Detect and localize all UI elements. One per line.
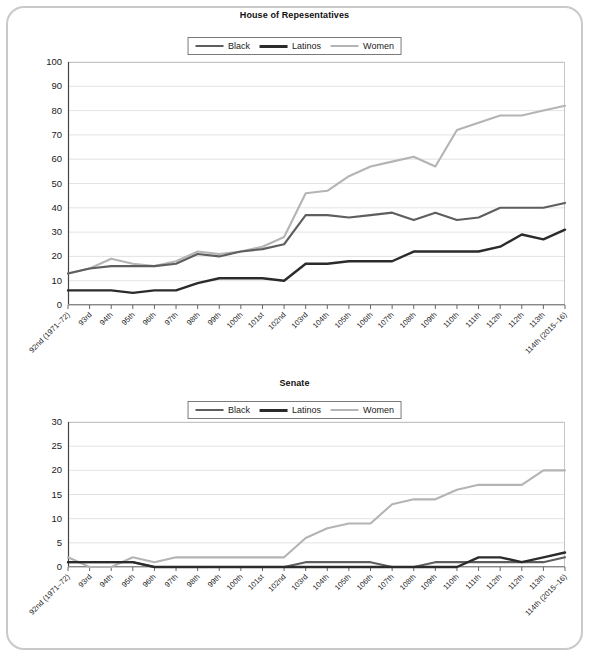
x-axis-tick-label: 112th [485, 311, 503, 329]
senate-plot-svg [68, 422, 565, 567]
x-axis-tick-label: 103rd [290, 573, 309, 592]
x-axis-tick-label: 93rd [77, 573, 93, 589]
senate-chart-panel: Senate Black Latinos Women 0510152025309… [0, 372, 589, 656]
legend-item-women[interactable]: Women [330, 41, 394, 51]
x-axis-tick-label: 102nd [267, 311, 287, 331]
house-chart-title: House of Repesentatives [0, 10, 589, 20]
x-axis-tick-label: 95th [120, 311, 136, 327]
legend-swatch-black-icon [195, 45, 223, 47]
x-axis-tick-label: 112th [485, 573, 503, 591]
x-axis-tick-label: 111th [464, 311, 482, 329]
x-axis-tick-label: 96th [142, 311, 158, 327]
x-axis-tick-label: 92nd (1971–72) [28, 311, 71, 354]
legend-swatch-latinos-icon [259, 409, 287, 412]
legend-item-black[interactable]: Black [195, 405, 250, 415]
legend-swatch-latinos-icon [259, 45, 287, 48]
house-chart-panel: House of Repesentatives Black Latinos Wo… [0, 0, 589, 372]
y-axis-tick-label: 0 [36, 562, 62, 572]
y-axis-tick-label: 10 [36, 514, 62, 524]
legend-item-latinos[interactable]: Latinos [259, 405, 321, 415]
senate-legend: Black Latinos Women [187, 401, 402, 419]
x-axis-tick-label: 95th [120, 573, 136, 589]
x-axis-tick-label: 93rd [77, 311, 93, 327]
x-axis-tick-label: 112th [507, 311, 525, 329]
legend-label-latinos: Latinos [292, 41, 321, 51]
x-axis-tick-label: 94th [99, 311, 115, 327]
x-axis-tick-label: 107th [377, 311, 396, 330]
y-axis-tick-label: 25 [36, 441, 62, 451]
legend-label-women: Women [363, 405, 394, 415]
y-axis-tick-label: 100 [36, 57, 62, 67]
y-axis-tick-label: 90 [36, 82, 62, 92]
x-axis-tick-label: 106th [355, 573, 374, 592]
x-axis-tick-label: 98th [185, 573, 201, 589]
x-axis-tick-label: 105th [333, 311, 352, 330]
x-axis-tick-label: 99th [207, 573, 223, 589]
legend-label-black: Black [228, 405, 250, 415]
house-legend: Black Latinos Women [187, 37, 402, 55]
y-axis-tick-label: 20 [36, 252, 62, 262]
x-axis-tick-label: 108th [398, 311, 417, 330]
x-axis-tick-label: 109th [420, 311, 439, 330]
legend-item-black[interactable]: Black [195, 41, 250, 51]
x-axis-tick-label: 94th [99, 573, 115, 589]
y-axis-tick-label: 50 [36, 179, 62, 189]
y-axis-tick-label: 10 [36, 276, 62, 286]
legend-label-women: Women [363, 41, 394, 51]
x-axis-tick-label: 110th [442, 573, 460, 591]
x-axis-tick-label: 107th [377, 573, 396, 592]
x-axis-tick-label: 101st [247, 573, 266, 592]
x-axis-tick-label: 112th [507, 573, 525, 591]
x-axis-tick-label: 104th [312, 311, 331, 330]
legend-swatch-black-icon [195, 409, 223, 411]
y-axis-tick-label: 30 [36, 227, 62, 237]
y-axis-tick-label: 5 [36, 538, 62, 548]
senate-plot-area: 05101520253092nd (1971–72)93rd94th95th96… [68, 422, 565, 567]
legend-label-latinos: Latinos [292, 405, 321, 415]
y-axis-tick-label: 30 [36, 417, 62, 427]
x-axis-tick-label: 108th [398, 573, 417, 592]
house-plot-svg [68, 62, 565, 305]
x-axis-tick-label: 92nd (1971–72) [28, 573, 71, 616]
y-axis-tick-label: 20 [36, 466, 62, 476]
x-axis-tick-label: 101st [247, 311, 266, 330]
legend-item-women[interactable]: Women [330, 405, 394, 415]
x-axis-tick-label: 99th [207, 311, 223, 327]
y-axis-tick-label: 80 [36, 106, 62, 116]
y-axis-tick-label: 60 [36, 154, 62, 164]
legend-swatch-women-icon [330, 409, 358, 411]
x-axis-tick-label: 110th [442, 311, 460, 329]
y-axis-tick-label: 0 [36, 300, 62, 310]
x-axis-tick-label: 98th [185, 311, 201, 327]
x-axis-tick-label: 114th (2015–16) [524, 311, 568, 355]
x-axis-tick-label: 100th [225, 311, 244, 330]
x-axis-tick-label: 109th [420, 573, 439, 592]
house-plot-area: 010203040506070809010092nd (1971–72)93rd… [68, 62, 565, 305]
legend-label-black: Black [228, 41, 250, 51]
x-axis-tick-label: 105th [333, 573, 352, 592]
x-axis-tick-label: 106th [355, 311, 374, 330]
x-axis-tick-label: 100th [225, 573, 244, 592]
y-axis-tick-label: 40 [36, 203, 62, 213]
x-axis-tick-label: 97th [164, 311, 180, 327]
x-axis-tick-label: 97th [164, 573, 180, 589]
x-axis-tick-label: 114th (2015–16) [524, 573, 568, 617]
x-axis-tick-label: 96th [142, 573, 158, 589]
y-axis-tick-label: 70 [36, 130, 62, 140]
x-axis-tick-label: 104th [312, 573, 331, 592]
legend-item-latinos[interactable]: Latinos [259, 41, 321, 51]
x-axis-tick-label: 111th [464, 573, 482, 591]
x-axis-tick-label: 103rd [290, 311, 309, 330]
senate-chart-title: Senate [0, 378, 589, 388]
x-axis-tick-label: 102nd [267, 573, 287, 593]
y-axis-tick-label: 15 [36, 490, 62, 500]
legend-swatch-women-icon [330, 45, 358, 47]
